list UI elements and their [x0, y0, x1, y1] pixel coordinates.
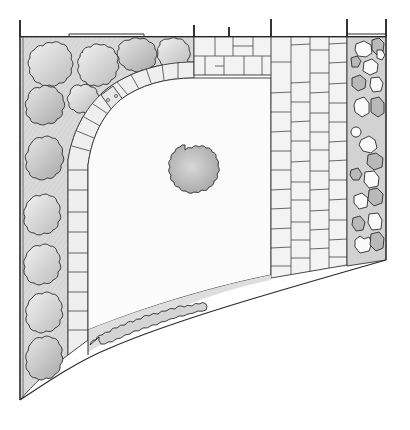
right-rock-bed — [347, 37, 386, 266]
shrub-icon — [26, 292, 63, 333]
shrub-icon — [24, 194, 61, 235]
rock-icon — [355, 236, 372, 253]
tree-icon — [169, 145, 220, 194]
shrub-icon — [25, 136, 64, 180]
garden-plan-drawing — [0, 0, 410, 430]
paved-terrace-right — [271, 37, 347, 278]
shrub-icon — [26, 336, 63, 380]
rock-icon — [351, 127, 361, 137]
shrub-icon — [24, 244, 61, 285]
feature-tree — [169, 145, 220, 194]
paved-path-top — [194, 37, 272, 75]
shrub-icon — [28, 42, 73, 86]
rock-icon — [368, 213, 382, 230]
boundary-wall — [20, 19, 386, 37]
lawn — [88, 78, 271, 330]
